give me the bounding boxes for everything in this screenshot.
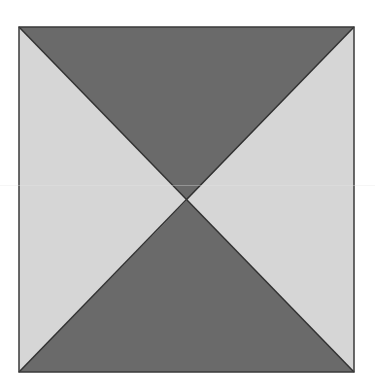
diagonal-square-diagram	[0, 0, 375, 392]
